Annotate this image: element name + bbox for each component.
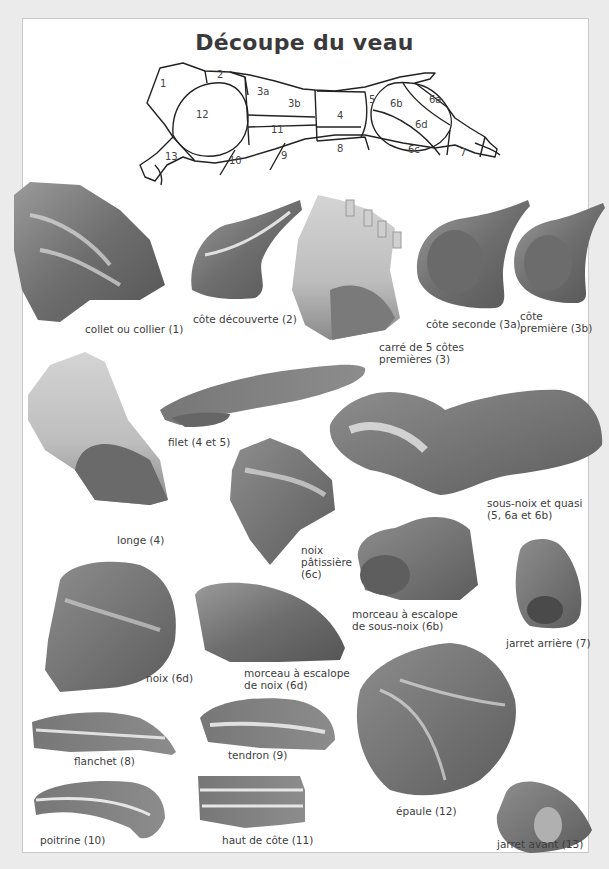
label-escalope-sous-noix-line2: de sous-noix (6b) bbox=[352, 620, 443, 632]
label-haut-de-cote: haut de côte (11) bbox=[222, 834, 313, 846]
label-sous-noix-line2: (5, 6a et 6b) bbox=[487, 509, 552, 521]
photo-sous-noix-quasi bbox=[330, 390, 602, 495]
label-escalope-sous-noix-line1: morceau à escalope bbox=[352, 608, 458, 620]
photo-jarret-arriere bbox=[516, 539, 582, 628]
label-epaule: épaule (12) bbox=[396, 805, 456, 817]
label-cote-seconde: côte seconde (3a) bbox=[426, 318, 521, 330]
photo-haut-de-cote bbox=[198, 776, 305, 828]
label-tendron: tendron (9) bbox=[228, 749, 287, 761]
photo-tendron bbox=[200, 698, 335, 750]
label-collet: collet ou collier (1) bbox=[85, 323, 183, 335]
label-noix-patissiere-line2: pâtissière bbox=[301, 556, 352, 568]
label-cote-premiere-line1: côte bbox=[520, 310, 543, 322]
photo-collet bbox=[14, 182, 165, 322]
label-noix-patissiere-line1: noix bbox=[301, 544, 323, 556]
label-carre-line2: premières (3) bbox=[379, 353, 450, 365]
photo-poitrine bbox=[34, 781, 165, 838]
photo-longe bbox=[28, 352, 168, 505]
label-flanchet: flanchet (8) bbox=[74, 755, 135, 767]
photo-epaule bbox=[357, 643, 516, 795]
photo-cote-premiere bbox=[514, 203, 605, 303]
label-jarret-arriere: jarret arrière (7) bbox=[506, 637, 591, 649]
photo-escalope-sous-noix bbox=[358, 517, 478, 600]
label-longe: longe (4) bbox=[117, 534, 164, 546]
photo-filet bbox=[160, 365, 365, 427]
photo-escalope-noix bbox=[195, 583, 345, 662]
meat-photos-layer bbox=[0, 0, 609, 869]
photo-flanchet bbox=[32, 712, 176, 755]
label-sous-noix-line1: sous-noix et quasi bbox=[487, 497, 582, 509]
photo-cote-seconde bbox=[417, 200, 530, 308]
label-carre-line1: carré de 5 côtes bbox=[379, 341, 464, 353]
photo-carre bbox=[292, 195, 401, 340]
label-filet: filet (4 et 5) bbox=[168, 436, 230, 448]
label-noix-patissiere-line3: (6c) bbox=[301, 568, 322, 580]
photo-cote-decouverte bbox=[191, 200, 302, 299]
label-noix: noix (6d) bbox=[146, 672, 193, 684]
label-escalope-noix-line1: morceau à escalope bbox=[244, 667, 350, 679]
label-poitrine: poitrine (10) bbox=[40, 834, 105, 846]
label-cote-premiere-line2: première (3b) bbox=[520, 322, 592, 334]
label-cote-decouverte: côte découverte (2) bbox=[193, 313, 297, 325]
label-jarret-avant: jarret avant (13) bbox=[497, 838, 583, 850]
label-escalope-noix-line2: de noix (6d) bbox=[244, 679, 308, 691]
